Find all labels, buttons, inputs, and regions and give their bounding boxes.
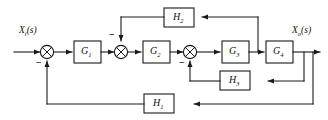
block-g4-label: G4 xyxy=(273,46,283,59)
input-signal-label: Xi(s) xyxy=(19,26,37,37)
input-suffix: (s) xyxy=(27,25,37,35)
h1-subscript: 1 xyxy=(160,103,163,110)
output-suffix: (s) xyxy=(301,25,311,35)
block-h2-label: H2 xyxy=(173,12,183,25)
block-h1-label: H1 xyxy=(153,98,163,111)
block-g1-label: G1 xyxy=(81,46,91,59)
g4-subscript: 4 xyxy=(280,51,283,58)
block-h3-label: H3 xyxy=(229,75,239,88)
h2-subscript: 2 xyxy=(180,17,183,24)
output-signal-label: Xo(s) xyxy=(292,26,311,37)
g1-subscript: 1 xyxy=(88,51,91,58)
block-diagram-canvas xyxy=(0,0,328,120)
block-diagram: Xi(s) Xo(s) G1 G2 G3 G4 H2 H3 H1 − − − xyxy=(0,0,328,120)
g2-subscript: 2 xyxy=(157,51,160,58)
g3-subscript: 3 xyxy=(236,51,239,58)
sum-junction-2-minus-sign: − xyxy=(109,30,115,40)
block-g3-label: G3 xyxy=(229,46,239,59)
sum-junction-1-minus-sign: − xyxy=(36,58,42,68)
sum-junction-3-minus-sign: − xyxy=(179,58,185,68)
h3-subscript: 3 xyxy=(236,80,239,87)
block-g2-label: G2 xyxy=(150,46,160,59)
